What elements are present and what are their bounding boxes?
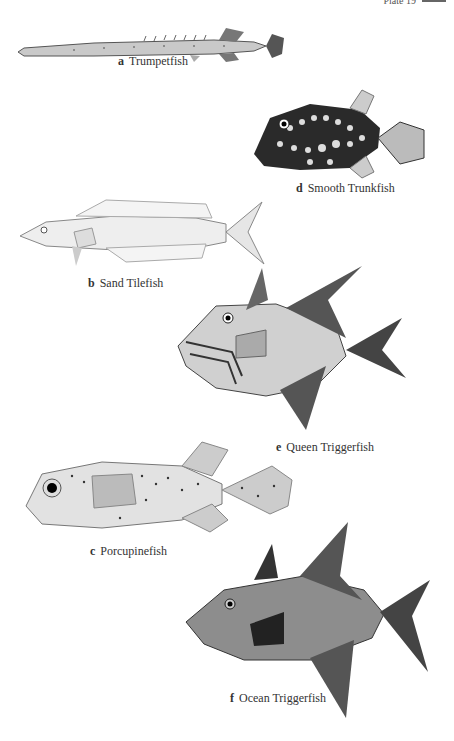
smooth-trunkfish-illustration (250, 88, 430, 180)
queen-triggerfish-illustration (176, 266, 436, 434)
sand-tilefish-illustration (16, 194, 266, 270)
figure-label-d: dSmooth Trunkfish (296, 181, 395, 196)
figure-label-f: fOcean Triggerfish (230, 691, 326, 706)
figure-label-a: aTrumpetfish (118, 54, 188, 69)
figure-label-c: cPorcupinefish (90, 544, 167, 559)
figure-label-b: bSand Tilefish (88, 276, 163, 291)
plate-number: Plate 19 (384, 0, 417, 6)
plate-header: Plate 19 (384, 0, 447, 6)
header-rule (422, 0, 446, 2)
